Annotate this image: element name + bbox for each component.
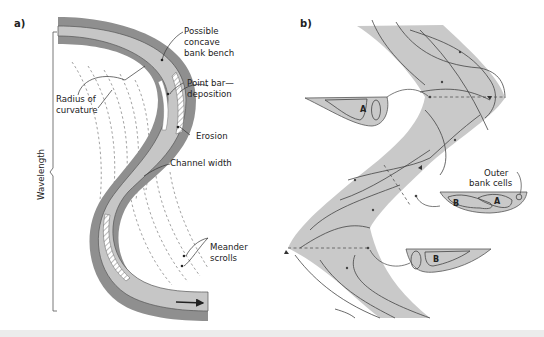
cell-b-label: B — [433, 255, 439, 264]
cell-a-label: A — [494, 197, 501, 206]
scrolls-label-1: Meander — [210, 242, 248, 252]
radius-label-2: curvature — [56, 105, 98, 115]
erosion-label: Erosion — [196, 131, 228, 141]
channel-width-label: Channel width — [170, 158, 232, 168]
point-bar-label-2: deposition — [187, 89, 232, 99]
cross-section-a: A — [305, 89, 428, 126]
cell-b-label: B — [453, 199, 459, 208]
cross-section-b: B — [370, 249, 491, 272]
meander-diagram: a) Wavelength — [0, 0, 544, 337]
panel-a-label: a) — [14, 18, 25, 29]
flow-arrow-icon — [176, 302, 203, 303]
bench-label-3: bank bench — [184, 48, 234, 58]
cross-section-ba: B A Outer bank cells — [416, 168, 527, 213]
radius-label-1: Radius of — [56, 94, 97, 104]
bench-label-2: concave — [184, 37, 220, 47]
point-bar-label-1: Point bar— — [187, 78, 234, 88]
cell-a-label: A — [360, 105, 367, 114]
scrolls-label-2: scrolls — [210, 253, 238, 263]
bench-label-1: Possible — [184, 26, 219, 36]
panel-a: a) Wavelength — [14, 17, 248, 321]
panel-b-label: b) — [300, 18, 312, 29]
panel-b: b) — [284, 18, 527, 318]
wavelength-bracket — [50, 32, 57, 311]
outer-bank-label-1: Outer — [484, 168, 509, 178]
flow-arrow-icon — [284, 250, 289, 254]
outer-bank-label-2: bank cells — [469, 178, 513, 188]
wavelength-label: Wavelength — [36, 149, 46, 200]
